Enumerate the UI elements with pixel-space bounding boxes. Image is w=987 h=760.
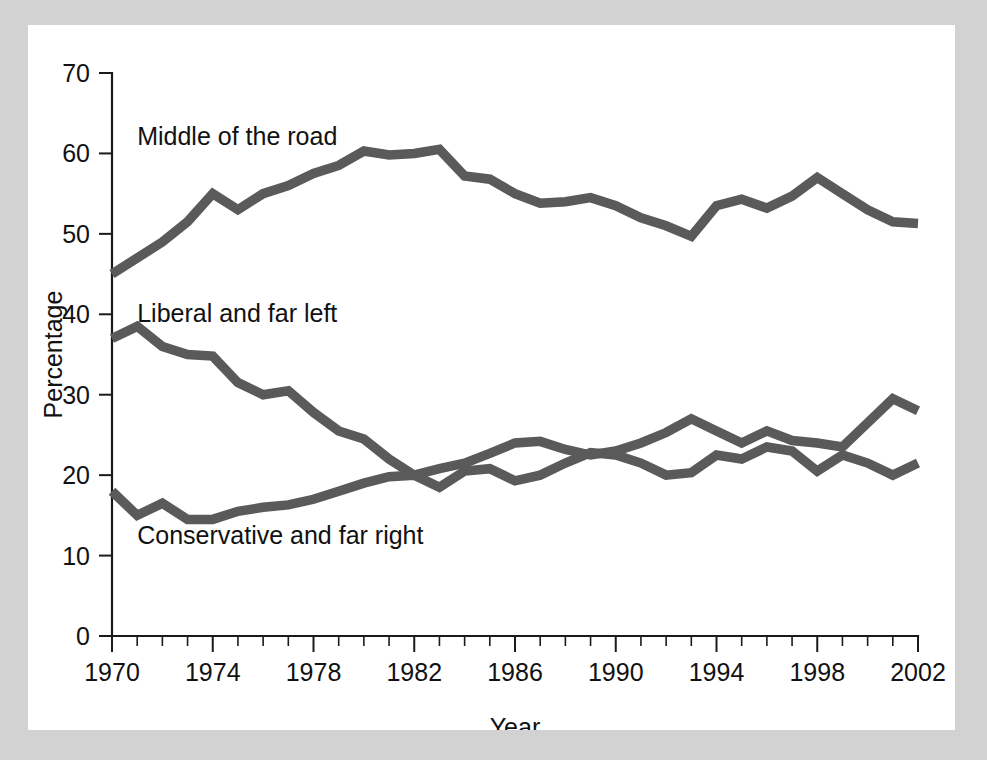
series-label: Conservative and far right	[137, 521, 423, 549]
y-tick-label: 70	[62, 59, 90, 87]
chart-series-group	[112, 149, 918, 519]
series-line	[112, 447, 918, 519]
x-axis-title: Year	[490, 713, 541, 730]
series-label: Liberal and far left	[137, 299, 337, 327]
x-tick-label: 1994	[689, 658, 745, 686]
figure-frame: 010203040506070 197019741978198219861990…	[0, 0, 987, 760]
x-tick-label: 1986	[487, 658, 543, 686]
y-tick-label: 60	[62, 139, 90, 167]
x-tick-label: 1970	[84, 658, 140, 686]
x-tick-label: 1978	[286, 658, 342, 686]
y-tick-label: 10	[62, 542, 90, 570]
x-tick-label: 1998	[789, 658, 845, 686]
x-tick-label: 2002	[890, 658, 946, 686]
series-line	[112, 149, 918, 274]
y-tick-label: 20	[62, 461, 90, 489]
line-chart: 010203040506070 197019741978198219861990…	[28, 25, 955, 730]
y-tick-label: 0	[76, 622, 90, 650]
x-axis-tick-labels: 197019741978198219861990199419982002	[84, 658, 946, 686]
y-tick-label: 50	[62, 220, 90, 248]
y-axis-title: Percentage	[39, 291, 67, 419]
x-tick-label: 1974	[185, 658, 241, 686]
chart-plot-area: 010203040506070 197019741978198219861990…	[28, 25, 955, 730]
x-tick-label: 1990	[588, 658, 644, 686]
y-axis-ticks	[99, 73, 112, 636]
series-label: Middle of the road	[137, 122, 337, 150]
x-axis-ticks	[112, 636, 918, 652]
x-tick-label: 1982	[386, 658, 442, 686]
